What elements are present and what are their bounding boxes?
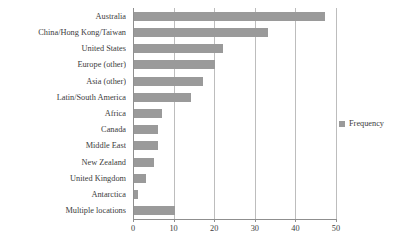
category-label: Multiple locations <box>0 206 126 215</box>
x-tick-label: 0 <box>120 224 146 234</box>
gridline <box>174 8 175 219</box>
category-label: Australia <box>0 12 126 21</box>
x-tick-mark <box>214 219 215 222</box>
category-label: United Kingdom <box>0 174 126 183</box>
x-axis: 01020304050 <box>133 219 336 241</box>
category-label: Africa <box>0 109 126 118</box>
x-tick-label: 10 <box>161 224 187 234</box>
x-axis-line <box>133 219 336 220</box>
bar <box>134 125 158 134</box>
category-label: Canada <box>0 125 126 134</box>
bar <box>134 158 154 167</box>
plot-area <box>133 8 336 219</box>
legend-swatch-frequency <box>339 121 345 127</box>
x-tick-mark <box>133 219 134 222</box>
x-tick-label: 40 <box>282 224 308 234</box>
gridline <box>255 8 256 219</box>
bar <box>134 77 203 86</box>
bar <box>134 60 215 69</box>
x-tick-mark <box>174 219 175 222</box>
bar <box>134 141 158 150</box>
bar <box>134 206 175 215</box>
bar <box>134 44 223 53</box>
category-label: Latin/South America <box>0 93 126 102</box>
bar <box>134 174 146 183</box>
gridline <box>214 8 215 219</box>
x-tick-label: 50 <box>323 224 349 234</box>
category-label: Antarctica <box>0 190 126 199</box>
legend: Frequency <box>339 119 384 128</box>
category-axis: AustraliaChina/Hong Kong/TaiwanUnited St… <box>0 8 130 219</box>
bar <box>134 109 162 118</box>
category-label: New Zealand <box>0 158 126 167</box>
bar <box>134 93 191 102</box>
bar <box>134 12 325 21</box>
legend-label-frequency: Frequency <box>349 119 384 128</box>
gridline <box>336 8 337 219</box>
x-tick-mark <box>255 219 256 222</box>
x-tick-label: 30 <box>242 224 268 234</box>
x-tick-mark <box>336 219 337 222</box>
category-label: Europe (other) <box>0 60 126 69</box>
bar <box>134 28 268 37</box>
x-tick-label: 20 <box>201 224 227 234</box>
category-label: United States <box>0 44 126 53</box>
category-label: Asia (other) <box>0 77 126 86</box>
category-label: Middle East <box>0 141 126 150</box>
gridline <box>295 8 296 219</box>
category-label: China/Hong Kong/Taiwan <box>0 28 126 37</box>
bar-chart: AustraliaChina/Hong Kong/TaiwanUnited St… <box>0 0 412 249</box>
x-tick-mark <box>295 219 296 222</box>
bar <box>134 190 138 199</box>
